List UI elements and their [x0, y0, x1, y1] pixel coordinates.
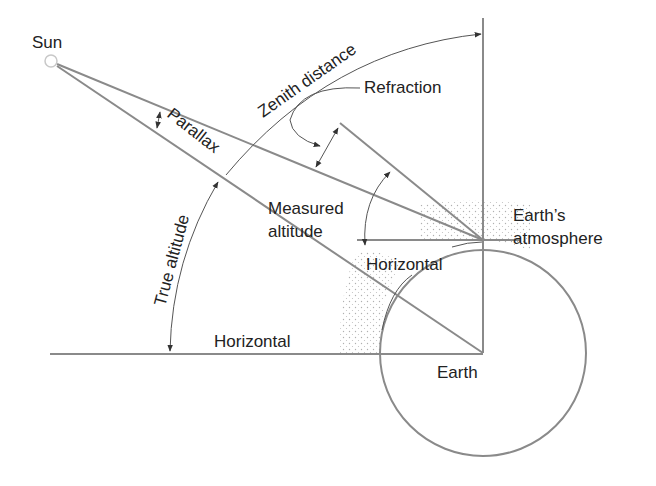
apparent-direction-line: [340, 123, 483, 240]
earth-atmosphere-label-2: atmosphere: [513, 229, 603, 248]
parallax-arrow: [157, 112, 160, 128]
earth-atmosphere-label-1: Earth’s: [513, 206, 566, 225]
measured-altitude-arrow: [365, 172, 390, 245]
parallax-label: Parallax: [164, 104, 224, 157]
true-altitude-label: True altitude: [151, 212, 194, 308]
refraction-label: Refraction: [364, 78, 441, 97]
horizontal-lower-label: Horizontal: [214, 332, 291, 351]
zenith-distance-label: Zenith distance: [254, 40, 359, 122]
sun-label: Sun: [32, 33, 62, 52]
horizontal-upper-label: Horizontal: [366, 255, 443, 274]
refraction-arrow: [316, 128, 338, 167]
sun-icon: [45, 55, 57, 67]
measured-altitude-label-2: altitude: [268, 222, 323, 241]
horizontal-leader: [452, 242, 482, 247]
diagram-canvas: Sun Zenith distance Refraction Parallax …: [0, 0, 656, 486]
measured-altitude-label-1: Measured: [268, 199, 344, 218]
earth-label: Earth: [437, 363, 478, 382]
